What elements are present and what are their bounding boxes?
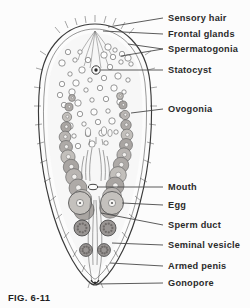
spermatogonium-cell [106,109,110,113]
spermatogonium-cell [104,141,108,145]
spermatogonium-cell [107,64,112,69]
spermatogonium-cell [101,52,107,58]
spermatogonium-cell [103,96,108,101]
armed-penis-bulb [98,244,111,257]
spermatogonium-cell [75,100,81,106]
label-gonopore: Gonopore [168,278,214,288]
seminal-vesicle [74,220,90,236]
spermatogonium-cell [129,62,133,66]
label-statocyst: Statocyst [168,65,212,75]
label-sensory-hair: Sensory hair [168,13,227,23]
spermatogonium-cell [113,48,117,52]
seminal-vesicle [100,220,116,236]
spermatogonium-cell [105,44,111,50]
spermatogonium-cell [88,78,92,82]
spermatogonium-cell [82,122,86,126]
spermatogonium-cell [59,81,64,86]
spermatogonium-cell [69,89,75,95]
spermatogonium-cell [109,118,115,124]
spermatogonium-cell [101,75,106,80]
spermatogonium-cell [78,50,82,54]
ovogonium-cell [61,122,72,133]
spermatogonium-cell [115,73,121,79]
egg-cell [69,192,92,215]
label-mouth: Mouth [168,182,197,192]
spermatogonium-cell [73,58,77,62]
spermatogonium-cell [126,78,130,82]
spermatogonium-cell [75,143,80,148]
label-spermatogonia: Spermatogonia [168,44,239,54]
ovogonium-cell [62,112,71,121]
mouth-opening [88,184,97,189]
spermatogonium-cell [85,57,90,62]
figure-caption: FIG. 6-11 [8,292,51,303]
spermatogonium-cell [97,85,102,90]
spermatogonium-cell [77,111,82,116]
spermatogonium-cell [68,72,72,76]
spermatogonium-cell [110,54,115,59]
label-frontal-glands: Frontal glands [168,29,235,39]
ovogonium-cell [117,93,124,100]
ovogonium-cell [121,120,132,131]
anatomy-diagram: Sensory hairFrontal glandsSpermatogoniaS… [0,0,250,308]
label-armed-penis: Armed penis [168,261,226,271]
label-sperm-duct: Sperm duct [168,220,221,230]
egg-cell [101,192,124,215]
spermatogonium-cell [79,67,85,73]
spermatogonium-cell [90,98,94,102]
armed-penis-bulb [80,244,93,257]
label-ovogonia: Ovogonia [168,104,213,114]
ovogonium-cell [119,101,127,109]
spermatogonium-cell [114,130,118,134]
spermatogonium-cell [73,80,79,86]
label-seminal-vesicle: Seminal vesicle [168,240,240,250]
spermatogonium-cell [65,49,70,54]
spermatogonium-cell [84,88,88,92]
spermatogonium-cell [57,92,62,97]
label-egg: Egg [168,200,186,210]
spermatogonium-cell [59,60,65,66]
statocyst-organ [92,66,100,74]
spermatogonium-cell [91,109,97,115]
spermatogonium-cell [119,60,123,64]
spermatogonium-cell [111,85,117,91]
ovogonium-cell [65,103,73,111]
spermatogonium-cell [125,55,131,61]
figure-container: Sensory hairFrontal glandsSpermatogoniaS… [0,0,250,308]
spermatogonium-cell [72,134,76,138]
spermatogonium-cell [95,119,100,124]
ovogonium-cell [69,95,76,102]
ovogonium-cell [120,110,129,119]
